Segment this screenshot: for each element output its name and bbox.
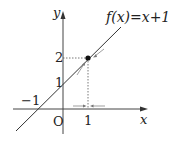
function-label: f(x)=x+1 <box>106 10 170 24</box>
point-marker <box>85 55 90 60</box>
arrowhead-icon <box>90 105 94 108</box>
function-line <box>16 27 121 131</box>
approach-arrow-upper <box>95 49 104 56</box>
tick-x-neg1: −1 <box>21 94 40 107</box>
tick-y-1: 1 <box>55 76 63 89</box>
arrowhead-icon <box>83 105 87 108</box>
tick-x-1: 1 <box>84 114 92 127</box>
origin-label: O <box>53 115 64 128</box>
x-axis-label: x <box>140 113 147 126</box>
y-axis-arrow-icon <box>61 11 66 19</box>
x-axis-arrow-icon <box>140 107 148 112</box>
y-axis-label: y <box>53 6 60 19</box>
tick-y-2: 2 <box>55 51 63 64</box>
